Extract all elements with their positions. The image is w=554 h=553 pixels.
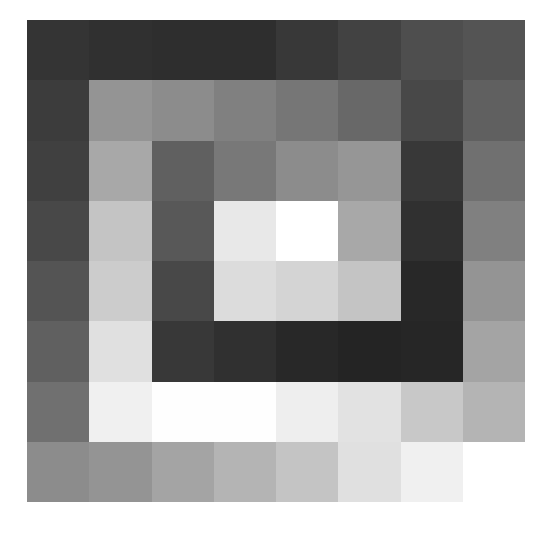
grid-cell-r2-c7 bbox=[463, 141, 525, 201]
grid-cell-r1-c7 bbox=[463, 80, 525, 140]
grayscale-spiral-grid bbox=[27, 20, 525, 502]
grid-cell-r6-c4 bbox=[276, 382, 338, 442]
grid-cell-r2-c3 bbox=[214, 141, 276, 201]
grid-cell-r3-c2 bbox=[152, 201, 214, 261]
grid-cell-r1-c4 bbox=[276, 80, 338, 140]
grid-cell-r0-c4 bbox=[276, 20, 338, 80]
grid-cell-r6-c6 bbox=[401, 382, 463, 442]
grid-cell-r5-c3 bbox=[214, 321, 276, 381]
grid-cell-r7-c6 bbox=[401, 442, 463, 502]
grid-cell-r4-c2 bbox=[152, 261, 214, 321]
grid-cell-r3-c6 bbox=[401, 201, 463, 261]
grid-cell-r2-c4 bbox=[276, 141, 338, 201]
grid-cell-r4-c5 bbox=[338, 261, 400, 321]
grid-cell-r7-c3 bbox=[214, 442, 276, 502]
grid-cell-r1-c0 bbox=[27, 80, 89, 140]
grid-cell-r6-c0 bbox=[27, 382, 89, 442]
grid-cell-r2-c5 bbox=[338, 141, 400, 201]
grid-cell-r4-c7 bbox=[463, 261, 525, 321]
grid-cell-r4-c1 bbox=[89, 261, 151, 321]
grid-cell-r1-c5 bbox=[338, 80, 400, 140]
grid-cell-r7-c4 bbox=[276, 442, 338, 502]
grid-cell-r0-c5 bbox=[338, 20, 400, 80]
grid-cell-r0-c2 bbox=[152, 20, 214, 80]
grid-cell-r7-c1 bbox=[89, 442, 151, 502]
grid-cell-r7-c0 bbox=[27, 442, 89, 502]
grid-cell-r2-c1 bbox=[89, 141, 151, 201]
grid-cell-r3-c5 bbox=[338, 201, 400, 261]
grid-cell-r6-c2 bbox=[152, 382, 214, 442]
grid-cell-r4-c6 bbox=[401, 261, 463, 321]
grid-cell-r1-c3 bbox=[214, 80, 276, 140]
grid-cell-r3-c4 bbox=[276, 201, 338, 261]
grid-cell-r0-c6 bbox=[401, 20, 463, 80]
grid-cell-r7-c2 bbox=[152, 442, 214, 502]
grid-cell-r5-c0 bbox=[27, 321, 89, 381]
grid-cell-r5-c7 bbox=[463, 321, 525, 381]
grid-cell-r5-c4 bbox=[276, 321, 338, 381]
grid-cell-r5-c5 bbox=[338, 321, 400, 381]
grid-cell-r2-c2 bbox=[152, 141, 214, 201]
grid-cell-r3-c7 bbox=[463, 201, 525, 261]
grid-cell-r3-c1 bbox=[89, 201, 151, 261]
grid-cell-r4-c0 bbox=[27, 261, 89, 321]
grid-cell-r1-c6 bbox=[401, 80, 463, 140]
grid-cell-r0-c0 bbox=[27, 20, 89, 80]
grid-cell-r2-c6 bbox=[401, 141, 463, 201]
grid-cell-r3-c0 bbox=[27, 201, 89, 261]
grid-cell-r0-c1 bbox=[89, 20, 151, 80]
grid-cell-r4-c3 bbox=[214, 261, 276, 321]
grid-cell-r5-c1 bbox=[89, 321, 151, 381]
grid-cell-r6-c1 bbox=[89, 382, 151, 442]
grid-cell-r5-c6 bbox=[401, 321, 463, 381]
grid-cell-r1-c1 bbox=[89, 80, 151, 140]
grid-cell-r6-c7 bbox=[463, 382, 525, 442]
grid-cell-r0-c7 bbox=[463, 20, 525, 80]
grid-cell-r6-c3 bbox=[214, 382, 276, 442]
grid-cell-r0-c3 bbox=[214, 20, 276, 80]
grid-cell-r7-c7 bbox=[463, 442, 525, 502]
grid-cell-r5-c2 bbox=[152, 321, 214, 381]
grid-cell-r4-c4 bbox=[276, 261, 338, 321]
grid-cell-r3-c3 bbox=[214, 201, 276, 261]
grid-cell-r2-c0 bbox=[27, 141, 89, 201]
grid-cell-r1-c2 bbox=[152, 80, 214, 140]
grid-cell-r7-c5 bbox=[338, 442, 400, 502]
grid-cell-r6-c5 bbox=[338, 382, 400, 442]
